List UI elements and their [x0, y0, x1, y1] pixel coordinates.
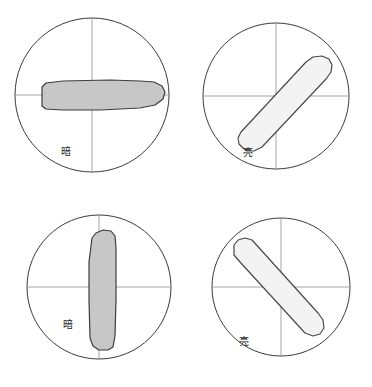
panel-bottom-left: 暗 [0, 194, 186, 387]
figure-root: 暗 亮 暗 亮 [0, 0, 372, 387]
panel-bottom-right: 亮 [186, 194, 372, 387]
panel-bottom-right-canvas: 亮 [186, 194, 372, 387]
panel-bottom-left-canvas: 暗 [0, 194, 186, 387]
panel-top-left: 暗 [0, 0, 186, 194]
mineral-grain-shape [89, 230, 116, 350]
panel-label-dark: 暗 [63, 318, 73, 330]
panel-top-right: 亮 [186, 0, 372, 194]
panel-label-bright: 亮 [243, 146, 253, 158]
panel-label-bright: 亮 [239, 335, 249, 347]
mineral-grain-shape [42, 80, 165, 110]
panel-label-dark: 暗 [61, 145, 71, 157]
panel-top-left-canvas: 暗 [0, 0, 186, 194]
panel-top-right-canvas: 亮 [186, 0, 372, 194]
